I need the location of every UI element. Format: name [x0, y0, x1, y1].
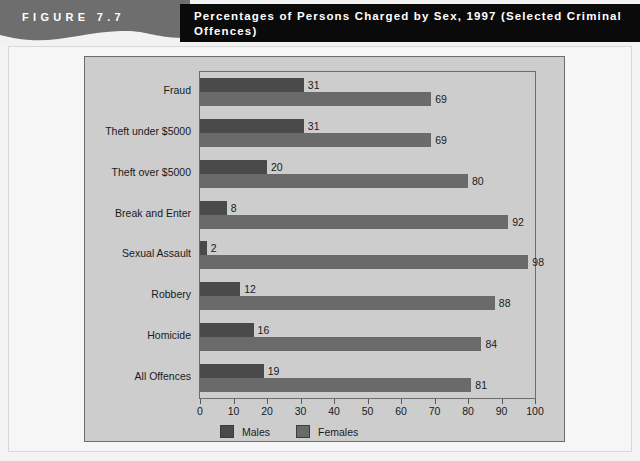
page-body: 316931692080892298128816841981 FraudThef… — [0, 46, 640, 461]
chart-panel: 316931692080892298128816841981 FraudThef… — [84, 56, 565, 442]
category-label: Theft under $5000 — [71, 125, 191, 137]
bar-females — [200, 296, 495, 310]
bar-value-males: 20 — [271, 160, 283, 174]
bar-value-males: 2 — [211, 241, 217, 255]
bar-value-females: 69 — [435, 92, 447, 106]
axis-tick-label: 90 — [496, 405, 508, 417]
legend-label: Females — [318, 426, 358, 438]
bar-males — [200, 160, 267, 174]
bar-males — [200, 241, 207, 255]
bar-males — [200, 323, 254, 337]
axis-tick — [502, 399, 503, 404]
figure-page: FIGURE 7.7 Percentages of Persons Charge… — [0, 0, 640, 461]
bar-females — [200, 337, 481, 351]
bar-males — [200, 282, 240, 296]
chart-legend: MalesFemales — [220, 425, 358, 438]
bar-females — [200, 215, 508, 229]
axis-tick — [368, 399, 369, 404]
axis-tick-label: 10 — [228, 405, 240, 417]
page-frame: 316931692080892298128816841981 FraudThef… — [8, 46, 632, 452]
bar-value-males: 16 — [258, 323, 270, 337]
bar-value-males: 8 — [231, 201, 237, 215]
bar-value-males: 12 — [244, 282, 256, 296]
axis-tick-label: 60 — [395, 405, 407, 417]
axis-tick-label: 0 — [197, 405, 203, 417]
bar-males — [200, 78, 304, 92]
bar-value-females: 98 — [532, 255, 544, 269]
axis-tick-label: 50 — [362, 405, 374, 417]
bar-value-females: 69 — [435, 133, 447, 147]
axis-tick-label: 100 — [526, 405, 544, 417]
axis-tick-label: 20 — [261, 405, 273, 417]
axis-tick — [435, 399, 436, 404]
bar-females — [200, 255, 528, 269]
bar-value-females: 81 — [475, 378, 487, 392]
plot-surface: 316931692080892298128816841981 — [200, 72, 535, 398]
legend-swatch-icon — [296, 425, 310, 438]
category-label: Sexual Assault — [71, 247, 191, 259]
bar-value-females: 84 — [485, 337, 497, 351]
bar-males — [200, 201, 227, 215]
axis-tick — [301, 399, 302, 404]
bar-males — [200, 119, 304, 133]
bar-females — [200, 133, 431, 147]
value-axis: 0102030405060708090100 — [199, 399, 536, 421]
figure-title: Percentages of Persons Charged by Sex, 1… — [194, 9, 628, 39]
legend-label: Males — [242, 426, 270, 438]
axis-tick — [200, 399, 201, 404]
legend-item: Males — [220, 425, 270, 438]
bar-value-females: 88 — [499, 296, 511, 310]
axis-tick — [535, 399, 536, 404]
category-label: Break and Enter — [71, 207, 191, 219]
header-band: FIGURE 7.7 Percentages of Persons Charge… — [0, 0, 640, 46]
axis-tick — [234, 399, 235, 404]
bar-females — [200, 174, 468, 188]
plot-area: 316931692080892298128816841981 — [199, 71, 536, 399]
axis-tick — [334, 399, 335, 404]
axis-tick-label: 30 — [295, 405, 307, 417]
legend-swatch-icon — [220, 425, 234, 438]
category-label: Homicide — [71, 329, 191, 341]
bar-value-males: 31 — [308, 119, 320, 133]
figure-number-label: FIGURE 7.7 — [22, 11, 125, 23]
category-label: Fraud — [71, 84, 191, 96]
bar-females — [200, 92, 431, 106]
axis-tick-label: 40 — [328, 405, 340, 417]
axis-tick — [401, 399, 402, 404]
axis-tick — [267, 399, 268, 404]
category-label: Theft over $5000 — [71, 166, 191, 178]
bar-value-females: 80 — [472, 174, 484, 188]
bar-females — [200, 378, 471, 392]
axis-tick — [468, 399, 469, 404]
bar-value-males: 31 — [308, 78, 320, 92]
axis-tick-label: 80 — [462, 405, 474, 417]
figure-band-wave-shape — [0, 0, 190, 46]
category-label: All Offences — [71, 370, 191, 382]
legend-item: Females — [296, 425, 358, 438]
figure-title-bar: Percentages of Persons Charged by Sex, 1… — [180, 4, 640, 42]
axis-tick-label: 70 — [429, 405, 441, 417]
bar-value-males: 19 — [268, 364, 280, 378]
bar-value-females: 92 — [512, 215, 524, 229]
category-label: Robbery — [71, 288, 191, 300]
bar-males — [200, 364, 264, 378]
